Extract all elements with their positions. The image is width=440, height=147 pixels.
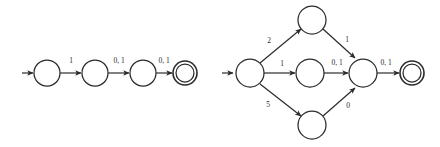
automata-figure: 1 0, 1 0, 1 <box>0 0 440 147</box>
transition-label-L1-L2: 0, 1 <box>113 56 125 65</box>
transition-R0-RT <box>260 29 301 63</box>
state-RA-accept[interactable] <box>400 61 424 85</box>
transition-RB-RJ <box>323 88 355 116</box>
automata-canvas: 1 0, 1 0, 1 <box>0 0 440 147</box>
transition-label-R0-RB: 5 <box>266 100 270 109</box>
state-RT-top[interactable] <box>298 6 326 34</box>
transition-label-L2-L3: 0, 1 <box>158 56 170 65</box>
transition-label-RM-RJ: 0, 1 <box>331 58 343 67</box>
left-automaton: 1 0, 1 0, 1 <box>22 56 197 86</box>
state-RJ-join[interactable] <box>349 59 377 87</box>
transition-label-R0-RT: 2 <box>267 36 271 45</box>
state-L0[interactable] <box>34 60 60 86</box>
state-L2[interactable] <box>130 60 156 86</box>
right-automaton: 2 1 5 1 0, 1 0 0, 1 <box>222 6 424 139</box>
transition-label-L0-L1: 1 <box>69 56 73 65</box>
transition-label-RT-RJ: 1 <box>345 35 349 44</box>
state-L1[interactable] <box>82 60 108 86</box>
state-RB-bottom[interactable] <box>298 111 326 139</box>
transition-label-R0-RM: 1 <box>280 59 284 68</box>
transition-RT-RJ <box>323 29 355 58</box>
transition-label-RJ-RA: 0, 1 <box>380 58 392 67</box>
state-RM-middle[interactable] <box>296 59 324 87</box>
state-R0-start[interactable] <box>236 59 264 87</box>
transition-label-RB-RJ: 0 <box>346 101 350 110</box>
state-L3-accept[interactable] <box>173 61 197 85</box>
